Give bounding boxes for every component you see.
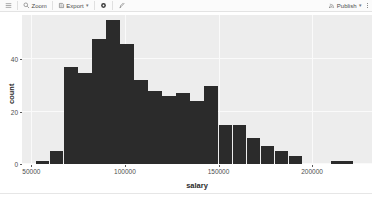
toolbar-divider-2 [52,1,53,10]
chart-panel[interactable] [22,15,372,164]
histogram-bar[interactable] [261,146,274,164]
export-icon [58,2,65,9]
x-tick-label: 100000 [114,168,136,175]
chart-viewer-window: Zoom Export ▾ [0,0,372,200]
x-axis-title: salary [22,181,372,190]
x-gridline [312,15,313,164]
chevron-down-icon[interactable]: ▾ [359,2,362,10]
brush-icon [118,2,125,9]
gear-icon [100,2,107,9]
toolbar-divider-3 [94,1,95,10]
histogram-bar[interactable] [219,125,232,164]
y-tick-label: 0 [0,161,18,168]
y-tick-mark [20,59,22,60]
histogram-bar[interactable] [148,91,161,164]
plot-area: 0204050000100000150000200000 salary coun… [0,12,372,193]
hamburger-icon [5,2,12,9]
histogram-bar[interactable] [162,96,175,164]
publish-icon [328,2,335,9]
x-tick-label: 150000 [208,168,230,175]
zoom-button[interactable]: Zoom [20,1,50,11]
y-tick-mark [20,164,22,165]
histogram-bar[interactable] [233,125,246,164]
toolbar-left-group: Zoom Export ▾ [2,1,128,11]
export-button-label: Export [66,2,83,10]
y-tick-mark [20,112,22,113]
histogram-bar[interactable] [289,156,302,164]
export-button[interactable]: Export ▾ [55,1,92,11]
histogram-bar[interactable] [134,80,147,164]
chevron-down-icon[interactable]: ▾ [86,2,89,10]
toolbar-divider-4 [112,1,113,10]
y-gridline [22,58,372,59]
y-tick-label: 20 [0,108,18,115]
x-tick-mark [312,165,313,167]
x-gridline [31,15,32,164]
magnifier-icon [23,2,30,9]
histogram-bar[interactable] [36,161,49,164]
histogram-bar[interactable] [50,151,63,164]
histogram-bar[interactable] [275,151,288,164]
publish-button[interactable]: Publish ▾ [325,1,365,11]
x-tick-label: 200000 [301,168,323,175]
window-footer [0,193,372,200]
publish-button-label: Publish [337,2,357,10]
y-tick-label: 40 [0,56,18,63]
toolbar-divider-1 [17,1,18,10]
histogram-bar[interactable] [190,101,203,164]
histogram-bar[interactable] [176,93,189,164]
x-tick-mark [125,165,126,167]
histogram-bar[interactable] [120,44,133,164]
chart-toolbar: Zoom Export ▾ [0,0,372,12]
kebab-menu-icon[interactable] [365,3,370,8]
histogram-bar[interactable] [92,39,105,164]
histogram-bar[interactable] [247,138,260,164]
histogram-bar[interactable] [331,161,353,164]
histogram-bar[interactable] [106,20,119,164]
histogram-bar[interactable] [204,86,217,164]
x-tick-mark [219,165,220,167]
y-axis-title: count [7,83,16,103]
brush-button[interactable] [115,1,128,11]
settings-button[interactable] [97,1,110,11]
x-tick-label: 50000 [22,168,40,175]
histogram-bar[interactable] [64,67,77,164]
toolbar-right-group: Publish ▾ [325,1,370,11]
zoom-button-label: Zoom [32,2,47,10]
hamburger-menu-button[interactable] [2,1,15,11]
x-tick-mark [31,165,32,167]
histogram-bar[interactable] [78,73,91,164]
